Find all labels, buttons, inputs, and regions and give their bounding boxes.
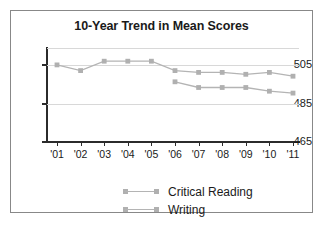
data-point: [173, 68, 178, 73]
x-axis-label: '02: [69, 148, 93, 160]
data-point: [267, 70, 272, 75]
data-point: [267, 89, 272, 94]
data-point: [102, 59, 107, 64]
x-axis-label: '07: [187, 148, 211, 160]
x-tick: [199, 142, 200, 146]
x-tick: [269, 142, 270, 146]
x-axis-label: '03: [92, 148, 116, 160]
data-point: [125, 59, 130, 64]
data-point: [291, 91, 296, 96]
x-tick: [222, 142, 223, 146]
legend-label-critical-reading: Critical Reading: [168, 185, 253, 199]
x-tick: [57, 142, 58, 146]
x-axis-label: '11: [281, 148, 305, 160]
data-point: [55, 63, 60, 68]
chart-container: 10-Year Trend in Mean Scores 505 485 465…: [10, 10, 313, 213]
legend-item-writing[interactable]: Writing: [123, 201, 312, 219]
x-axis-label: '10: [257, 148, 281, 160]
series-layer: [47, 48, 299, 142]
data-point: [243, 85, 248, 90]
markers-critical-reading: [55, 59, 296, 79]
data-point: [149, 59, 154, 64]
x-axis-label: '08: [210, 148, 234, 160]
x-axis-label: '01: [45, 148, 69, 160]
data-point: [173, 79, 178, 84]
x-tick: [81, 142, 82, 146]
x-axis-label: '06: [163, 148, 187, 160]
data-point: [291, 74, 296, 79]
data-point: [78, 68, 83, 73]
x-axis-label: '05: [139, 148, 163, 160]
data-point: [220, 70, 225, 75]
x-tick: [246, 142, 247, 146]
legend-item-critical-reading[interactable]: Critical Reading: [123, 183, 312, 201]
x-axis-label: '04: [116, 148, 140, 160]
x-axis-label: '09: [234, 148, 258, 160]
line-writing: [175, 82, 293, 93]
data-point: [220, 85, 225, 90]
data-point: [196, 70, 201, 75]
legend-label-writing: Writing: [168, 203, 205, 217]
y-tick-465: [42, 141, 46, 143]
x-tick: [293, 142, 294, 146]
x-tick: [104, 142, 105, 146]
data-point: [243, 72, 248, 77]
x-tick: [175, 142, 176, 146]
plot-area: [47, 48, 299, 142]
x-tick: [151, 142, 152, 146]
legend-marker-icon: [123, 187, 161, 197]
data-point: [196, 85, 201, 90]
legend-marker-icon: [123, 205, 161, 215]
chart-title: 10-Year Trend in Mean Scores: [11, 19, 312, 33]
y-tick-485: [42, 103, 46, 105]
chart-legend: Critical Reading Writing: [11, 183, 312, 219]
x-tick: [128, 142, 129, 146]
y-tick-505: [42, 64, 46, 66]
